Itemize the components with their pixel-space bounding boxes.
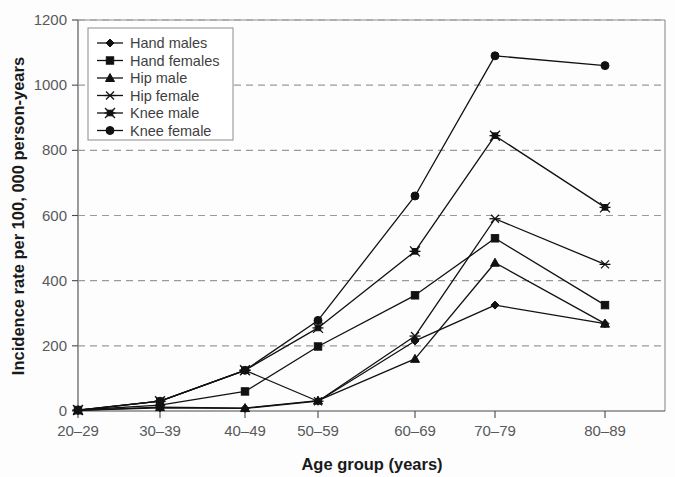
marker-circle	[411, 192, 419, 200]
marker-circle	[156, 397, 164, 405]
x-tick-label: 80–89	[584, 422, 626, 439]
series-hand-males	[74, 301, 609, 414]
marker-cross	[600, 260, 611, 268]
marker-triangle	[491, 258, 500, 266]
y-tick-label: 400	[42, 272, 67, 289]
legend-label: Hand females	[130, 53, 219, 69]
series-hip-female	[73, 215, 611, 415]
marker-circle	[106, 127, 114, 135]
legend-label: Hand males	[130, 35, 207, 51]
incidence-rate-line-chart: 020040060080010001200 20–2930–3940–4950–…	[0, 0, 675, 477]
legend-label: Hip female	[130, 88, 199, 104]
x-tick-label: 40–49	[224, 422, 266, 439]
marker-circle	[74, 406, 82, 414]
y-tick-label: 200	[42, 337, 67, 354]
series-hip-male	[74, 258, 610, 414]
y-tick-label: 1000	[34, 76, 67, 93]
y-tick-label: 1200	[34, 11, 67, 28]
marker-square	[411, 292, 418, 299]
y-tick-label: 0	[59, 402, 67, 419]
x-tick-label: 60–69	[394, 422, 436, 439]
x-tick-label: 70–79	[474, 422, 516, 439]
marker-circle	[491, 52, 499, 60]
marker-square	[491, 235, 498, 242]
legend-label: Hip male	[130, 70, 187, 86]
x-tick-label: 50–59	[297, 422, 339, 439]
legend-label: Knee male	[130, 105, 199, 121]
y-axis-ticks: 020040060080010001200	[34, 11, 78, 419]
marker-diamond	[491, 301, 499, 309]
x-axis-ticks: 20–2930–3940–4950–5960–6970–7980–89	[57, 411, 626, 439]
y-tick-label: 600	[42, 207, 67, 224]
marker-star	[490, 131, 501, 141]
series-line	[78, 305, 605, 410]
y-axis-title: Incidence rate per 100, 000 person-years	[9, 57, 27, 375]
series-knee-male	[73, 131, 611, 415]
chart-legend: Hand malesHand femalesHip maleHip female…	[88, 28, 233, 140]
marker-circle	[241, 366, 249, 374]
marker-square	[106, 57, 113, 64]
marker-square	[241, 388, 248, 395]
x-axis-title: Age group (years)	[301, 455, 442, 473]
series-line	[78, 219, 605, 411]
marker-star	[410, 246, 421, 256]
figure-container: 020040060080010001200 20–2930–3940–4950–…	[0, 0, 675, 477]
series-line	[78, 263, 605, 411]
x-tick-label: 30–39	[139, 422, 181, 439]
x-tick-label: 20–29	[57, 422, 99, 439]
marker-circle	[601, 62, 609, 70]
marker-star	[600, 202, 611, 212]
marker-square	[314, 343, 321, 350]
marker-circle	[314, 316, 322, 324]
legend-label: Knee female	[130, 123, 211, 139]
marker-square	[601, 301, 608, 308]
y-tick-label: 800	[42, 141, 67, 158]
series-line	[78, 238, 605, 410]
series-line	[78, 136, 605, 410]
